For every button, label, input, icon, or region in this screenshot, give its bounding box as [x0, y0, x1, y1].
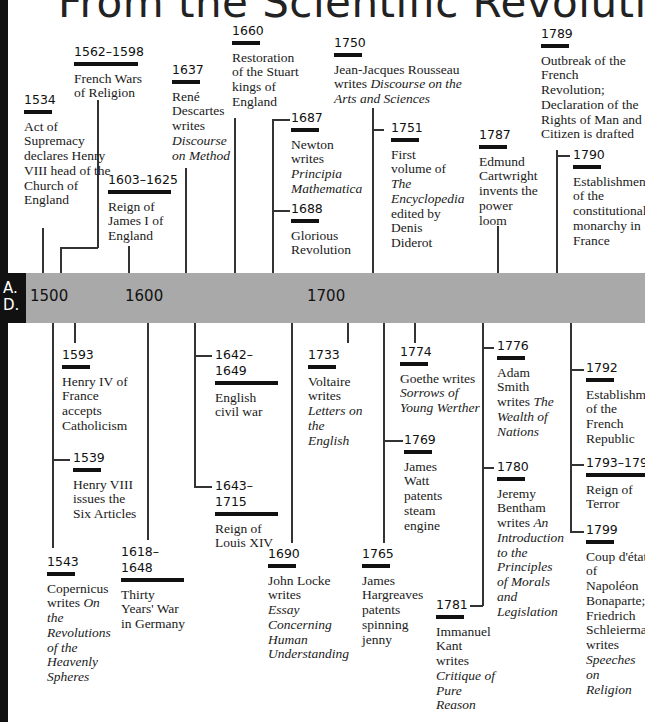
- event-year: 1562–1598: [74, 44, 144, 62]
- event-1765: 1765 James Hargreaves patents spinning j…: [362, 546, 428, 647]
- event-text: First volume of The Encyclopedia edited …: [391, 148, 453, 252]
- event-text: Adam Smith writes The Wealth of Nations: [497, 366, 563, 440]
- event-text: Immanuel Kant writes Critique of Pure Re…: [436, 625, 496, 714]
- left-margin-rule: [0, 0, 8, 722]
- connector: [570, 369, 584, 371]
- connector: [147, 323, 149, 540]
- connector: [347, 323, 349, 343]
- connector: [60, 247, 98, 249]
- connector: [482, 323, 484, 606]
- connector: [414, 323, 416, 343]
- event-year: 1774: [400, 344, 480, 362]
- connector: [570, 323, 572, 532]
- event-text: Jean-Jacques Rousseau writes Discourse o…: [334, 63, 484, 107]
- event-1781: 1781 Immanuel Kant writes Critique of Pu…: [436, 597, 496, 713]
- connector: [272, 119, 290, 121]
- year-marker: [62, 365, 90, 369]
- year-marker: [291, 128, 319, 132]
- event-1637: 1637 René Descartes writes Discourse on …: [172, 62, 232, 163]
- event-text: Jeremy Bentham writes An Introduction to…: [497, 487, 565, 620]
- connector: [272, 210, 290, 212]
- year-marker: [74, 62, 138, 66]
- event-text: Edmund Cartwright invents the power loom: [479, 155, 539, 229]
- event-text: Goethe writes Sorrows of Young Werther: [400, 372, 480, 416]
- year-marker: [541, 44, 569, 48]
- event-text: Outbreak of the French Revolution; Decla…: [541, 54, 645, 143]
- axis-tick-1600: 1600: [125, 287, 163, 305]
- event-1751: 1751 First volume of The Encyclopedia ed…: [391, 120, 453, 251]
- event-text: Voltaire writes Letters on the English: [308, 375, 368, 449]
- event-year: 1750: [334, 35, 484, 53]
- connector: [60, 247, 62, 273]
- event-text: Restoration of the Stuart kings of Engla…: [232, 51, 302, 110]
- event-year: 1765: [362, 546, 428, 564]
- year-marker: [24, 110, 52, 114]
- event-text: Henry IV of France accepts Catholicism: [62, 375, 132, 434]
- event-year: 1660: [232, 23, 302, 41]
- axis-tick-1700: 1700: [307, 287, 345, 305]
- event-text: Glorious Revolution: [291, 229, 361, 259]
- connector: [497, 226, 499, 273]
- event-1543: 1543 Copernicus writes On the Revolution…: [47, 554, 119, 685]
- event-year: 1733: [308, 347, 368, 365]
- event-text: Reign of James I of England: [108, 200, 180, 244]
- year-marker: [404, 450, 432, 454]
- event-1534: 1534 Act of Supremacy declares Henry VII…: [24, 92, 114, 208]
- event-year: 1789: [541, 26, 645, 44]
- year-marker: [121, 578, 184, 582]
- event-text: John Locke writes Essay Concerning Human…: [268, 574, 334, 663]
- event-1799: 1799 Coup d'état of Napoléon Bonaparte; …: [586, 522, 645, 697]
- event-text: James Hargreaves patents spinning jenny: [362, 574, 428, 648]
- connector: [42, 228, 44, 273]
- event-year: 1643–1715: [215, 478, 283, 512]
- event-1660: 1660 Restoration of the Stuart kings of …: [232, 23, 302, 110]
- connector: [383, 440, 403, 442]
- year-marker: [47, 572, 75, 576]
- event-text: English civil war: [215, 391, 283, 421]
- connector: [185, 168, 187, 273]
- connector: [194, 355, 212, 357]
- event-1562-1598: 1562–1598 French Wars of Religion: [74, 44, 144, 101]
- connector: [372, 108, 374, 273]
- event-year: 1787: [479, 127, 539, 145]
- event-1774: 1774 Goethe writes Sorrows of Young Wert…: [400, 344, 480, 416]
- event-1643-1715: 1643–1715 Reign of Louis XIV: [215, 478, 283, 551]
- event-year: 1780: [497, 459, 565, 477]
- connector: [570, 531, 584, 533]
- connector: [74, 323, 76, 343]
- year-marker: [291, 219, 319, 223]
- connector: [556, 155, 570, 157]
- connector: [272, 119, 274, 273]
- event-text: René Descartes writes Discourse on Metho…: [172, 90, 232, 164]
- event-year: 1776: [497, 338, 563, 356]
- event-1642-1649: 1642–1649 English civil war: [215, 347, 283, 420]
- event-text: Reign of Terror: [586, 483, 645, 513]
- year-marker: [586, 473, 645, 477]
- year-marker: [308, 365, 336, 369]
- event-text: Coup d'état of Napoléon Bonaparte; Fried…: [586, 550, 645, 698]
- event-text: Copernicus writes On the Revolutions of …: [47, 582, 119, 686]
- era-label: A. D.: [0, 273, 26, 323]
- event-1688: 1688 Glorious Revolution: [291, 201, 361, 258]
- connector: [194, 323, 196, 486]
- connector: [482, 467, 494, 469]
- event-1769: 1769 James Watt patents steam engine: [404, 432, 464, 533]
- event-1618-1648: 1618–1648 Thirty Years' War in Germany: [121, 544, 189, 632]
- event-year: 1781: [436, 597, 496, 615]
- event-1776: 1776 Adam Smith writes The Wealth of Nat…: [497, 338, 563, 439]
- event-text: Henry VIII issues the Six Articles: [73, 478, 143, 522]
- connector: [383, 323, 385, 543]
- event-year: 1637: [172, 62, 232, 80]
- year-marker: [362, 564, 390, 568]
- event-year: 1539: [73, 450, 143, 468]
- event-year: 1593: [62, 347, 132, 365]
- event-1750: 1750 Jean-Jacques Rousseau writes Discou…: [334, 35, 484, 107]
- event-year: 1792: [586, 360, 645, 378]
- year-marker: [215, 512, 278, 516]
- event-text: Establishment of the French Republic: [586, 388, 645, 447]
- event-1539: 1539 Henry VIII issues the Six Articles: [73, 450, 143, 522]
- event-year: 1690: [268, 546, 334, 564]
- connector: [194, 486, 212, 488]
- year-marker: [334, 53, 362, 57]
- page-title: From the Scientific Revolution to the Pr…: [58, 0, 645, 27]
